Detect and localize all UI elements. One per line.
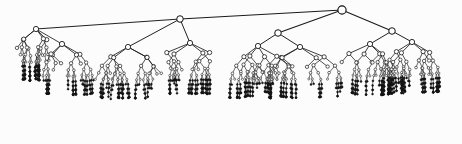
tree-leaf-node <box>256 83 258 85</box>
tree-leaf-node <box>253 83 255 85</box>
tree-leaf-node <box>321 88 323 90</box>
tree-leaf-node <box>73 81 75 83</box>
tree-leaf-node <box>108 96 110 98</box>
tree-node <box>397 72 399 74</box>
tree-leaf-node <box>240 88 242 90</box>
tree-node <box>82 68 85 71</box>
tree-leaf-node <box>239 83 241 85</box>
tree-node <box>282 78 284 80</box>
tree-leaf-node <box>176 84 178 86</box>
tree-leaf-node <box>357 89 359 91</box>
tree-node <box>24 53 27 56</box>
tree-node <box>79 62 82 65</box>
tree-leaf-node <box>372 80 374 82</box>
tree-node <box>283 72 286 75</box>
tree-leaf-node <box>404 82 406 84</box>
tree-node <box>52 69 55 72</box>
tree-leaf-node <box>383 85 385 87</box>
tree-node <box>391 60 394 63</box>
tree-leaf-node <box>209 92 211 94</box>
tree-leaf-node <box>111 89 113 91</box>
tree-leaf-node <box>383 77 385 79</box>
tree-leaf-node <box>24 65 26 67</box>
tree-leaf-node <box>29 66 31 68</box>
tree-node <box>409 39 414 44</box>
tree-leaf-node <box>283 91 285 93</box>
tree-leaf-node <box>432 82 434 84</box>
tree-node <box>238 78 240 80</box>
tree-leaf-node <box>75 93 77 95</box>
tree-leaf-node <box>144 93 146 95</box>
tree-node <box>340 60 343 63</box>
tree-node <box>423 73 425 75</box>
tree-leaf-node <box>286 96 288 98</box>
tree-leaf-node <box>285 91 287 93</box>
tree-node <box>148 72 151 75</box>
tree-node <box>438 72 440 74</box>
tree-node <box>23 60 25 62</box>
tree-leaf-node <box>240 92 242 94</box>
tree-node <box>107 78 109 80</box>
tree-leaf-node <box>108 83 110 85</box>
tree-leaf-node <box>38 73 40 75</box>
tree-node <box>126 78 128 80</box>
tree-node <box>48 59 50 61</box>
tree-node <box>68 75 70 77</box>
tree-leaf-node <box>339 91 341 93</box>
tree-node <box>280 56 284 60</box>
tree-node <box>415 66 418 69</box>
tree-leaf-node <box>285 87 287 89</box>
tree-leaf-node <box>75 89 77 91</box>
tree-node <box>94 78 96 80</box>
tree-leaf-node <box>176 92 178 94</box>
tree-node <box>385 75 387 77</box>
tree-leaf-node <box>203 83 205 85</box>
tree-leaf-node <box>295 84 297 86</box>
tree-node <box>118 64 121 67</box>
tree-leaf-node <box>43 80 45 82</box>
tree-node <box>268 72 271 75</box>
tree-node <box>255 43 260 48</box>
tree-node <box>297 44 302 49</box>
tree-node <box>112 79 114 81</box>
tree-node <box>320 78 322 80</box>
tree-node <box>230 78 232 80</box>
tree-node <box>276 78 278 80</box>
tree-node <box>260 77 262 79</box>
tree-leaf-node <box>86 85 88 87</box>
tree-leaf-node <box>109 87 111 89</box>
tree-node <box>235 64 238 67</box>
tree-node <box>389 74 391 76</box>
tree-node <box>267 64 270 67</box>
tree-node <box>394 68 397 71</box>
tree-node <box>388 58 391 61</box>
tree-leaf-node <box>118 88 120 90</box>
tree-leaf-node <box>341 82 343 84</box>
tree-leaf-node <box>430 83 432 85</box>
tree-node <box>266 78 268 80</box>
tree-leaf-node <box>202 92 204 94</box>
tree-leaf-node <box>135 97 137 99</box>
tree-leaf-node <box>147 96 149 98</box>
tree-leaf-node <box>191 88 193 90</box>
tree-leaf-node <box>398 78 400 80</box>
tree-node <box>427 59 430 62</box>
tree-node <box>100 64 103 67</box>
tree-leaf-node <box>395 81 397 83</box>
tree-node <box>45 61 48 64</box>
tree-node <box>113 73 116 76</box>
tree-node <box>287 65 290 68</box>
tree-leaf-node <box>337 91 339 93</box>
tree-leaf-node <box>202 79 204 81</box>
tree-leaf-node <box>122 88 124 90</box>
tree-node <box>254 71 257 74</box>
tree-leaf-node <box>280 82 282 84</box>
tree-leaf-node <box>29 71 31 73</box>
tree-node <box>89 68 92 71</box>
tree-node <box>242 63 245 66</box>
tree-leaf-node <box>108 91 110 93</box>
tree-leaf-node <box>249 86 251 88</box>
tree-leaf-node <box>48 88 50 90</box>
tree-leaf-node <box>392 79 394 81</box>
tree-leaf-node <box>438 91 440 93</box>
